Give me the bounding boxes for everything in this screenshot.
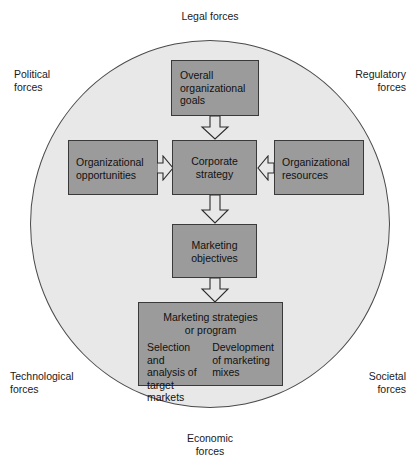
arrow-resources-to-strategy xyxy=(257,155,274,181)
node-marketing-strategies: Marketing strategies or program Selectio… xyxy=(138,302,283,386)
force-label-legal: Legal forces xyxy=(0,10,420,23)
force-label-economic: Economic forces xyxy=(0,432,420,457)
node-corporate-strategy-label: Corporate strategy xyxy=(173,155,256,180)
node-marketing-strategies-sub-target-markets: Selection and analysis of target markets xyxy=(147,341,206,404)
node-organizational-opportunities: Organizational opportunities xyxy=(68,140,158,195)
force-label-societal: Societal forces xyxy=(316,370,406,395)
force-label-technological: Technological forces xyxy=(10,370,110,395)
diagram-canvas: Legal forces Political forces Regulatory… xyxy=(0,0,420,474)
arrow-strategy-to-objectives xyxy=(200,195,230,224)
node-marketing-objectives-label: Marketing objectives xyxy=(173,239,256,264)
arrow-objectives-to-strategies xyxy=(200,278,230,303)
node-overall-organizational-goals: Overall organizational goals xyxy=(171,60,259,116)
force-label-regulatory: Regulatory forces xyxy=(316,68,406,93)
node-organizational-opportunities-label: Organizational opportunities xyxy=(76,156,144,181)
node-marketing-strategies-sub-marketing-mixes: Development of marketing mixes xyxy=(206,341,274,404)
node-overall-organizational-goals-label: Overall organizational goals xyxy=(180,69,245,107)
node-marketing-strategies-title: Marketing strategies or program xyxy=(139,311,282,336)
force-label-political: Political forces xyxy=(14,68,104,93)
node-organizational-resources: Organizational resources xyxy=(274,140,364,195)
node-marketing-strategies-subcolumns: Selection and analysis of target markets… xyxy=(139,341,282,404)
node-corporate-strategy: Corporate strategy xyxy=(172,140,257,195)
arrow-goals-to-strategy xyxy=(200,116,230,140)
node-organizational-resources-label: Organizational resources xyxy=(282,156,350,181)
node-marketing-objectives: Marketing objectives xyxy=(172,224,257,278)
